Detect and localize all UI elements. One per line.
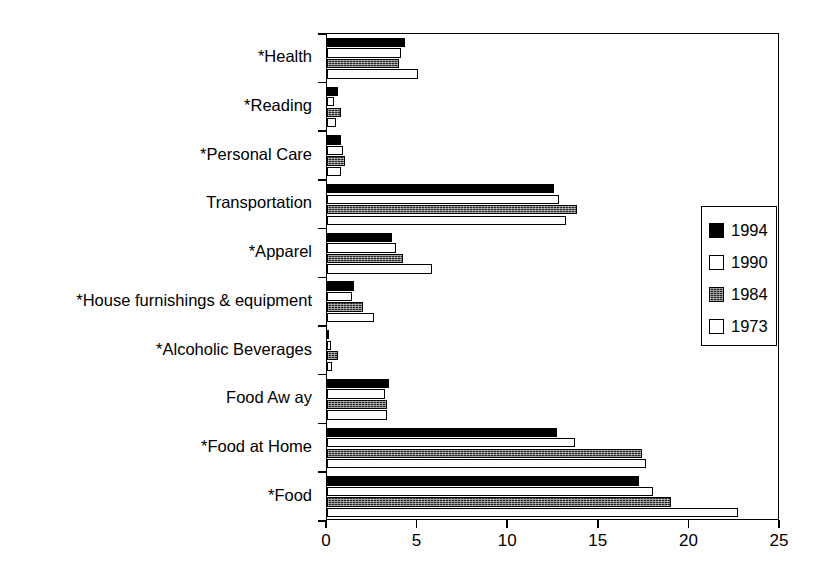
legend-label: 1990 bbox=[731, 254, 768, 271]
bar-group bbox=[327, 83, 778, 132]
bar-1984-2 bbox=[327, 156, 345, 165]
bar-1990-8 bbox=[327, 438, 575, 447]
bar-1990-0 bbox=[327, 48, 401, 57]
legend-item[interactable]: 1973 bbox=[702, 310, 776, 342]
category-label: *Apparel bbox=[249, 243, 312, 260]
x-axis-tick bbox=[778, 520, 780, 528]
bar-1990-9 bbox=[327, 487, 653, 496]
y-axis-tick bbox=[318, 228, 326, 230]
x-axis-tick bbox=[506, 520, 508, 528]
y-axis-tick bbox=[318, 33, 326, 35]
legend-label: 1973 bbox=[731, 318, 768, 335]
bar-1973-3 bbox=[327, 216, 566, 225]
bar-1984-6 bbox=[327, 351, 338, 360]
x-axis-tick-label: 0 bbox=[321, 532, 330, 549]
bar-1990-1 bbox=[327, 97, 334, 106]
bar-1990-4 bbox=[327, 243, 396, 252]
category-label: *House furnishings & equipment bbox=[76, 292, 312, 309]
bar-1994-5 bbox=[327, 281, 354, 290]
x-axis-tick-label: 20 bbox=[679, 532, 698, 549]
x-axis: 0510152025 bbox=[326, 520, 779, 570]
legend-item[interactable]: 1990 bbox=[702, 246, 776, 278]
category-label: *Food bbox=[268, 487, 312, 504]
bar-1994-8 bbox=[327, 428, 557, 437]
x-axis-tick-label: 25 bbox=[770, 532, 789, 549]
bar-1973-8 bbox=[327, 459, 646, 468]
bar-group bbox=[327, 34, 778, 83]
bar-1990-2 bbox=[327, 146, 343, 155]
bar-1973-2 bbox=[327, 167, 341, 176]
bar-1973-5 bbox=[327, 313, 374, 322]
category-label: *Personal Care bbox=[200, 146, 312, 163]
category-axis-labels: *Health*Reading*Personal CareTransportat… bbox=[0, 33, 320, 520]
x-axis-tick bbox=[688, 520, 690, 528]
bar-1973-7 bbox=[327, 410, 387, 419]
bar-1984-5 bbox=[327, 302, 363, 311]
x-axis-tick-label: 5 bbox=[412, 532, 421, 549]
category-label: Transportation bbox=[206, 194, 312, 211]
bar-group bbox=[327, 424, 778, 473]
bar-1994-2 bbox=[327, 135, 341, 144]
bar-group bbox=[327, 131, 778, 180]
bar-1973-0 bbox=[327, 69, 418, 78]
legend-swatch-icon bbox=[709, 223, 724, 238]
bar-1990-7 bbox=[327, 389, 385, 398]
bar-1994-9 bbox=[327, 476, 639, 485]
category-label: *Health bbox=[258, 48, 312, 65]
x-axis-tick bbox=[416, 520, 418, 528]
category-label: Food Aw ay bbox=[226, 389, 312, 406]
bar-1984-1 bbox=[327, 108, 341, 117]
bar-1994-0 bbox=[327, 38, 405, 47]
bar-chart: *Health*Reading*Personal CareTransportat… bbox=[0, 0, 830, 588]
bar-1973-4 bbox=[327, 264, 432, 273]
bar-1984-3 bbox=[327, 205, 577, 214]
y-axis-tick bbox=[318, 82, 326, 84]
bar-1984-9 bbox=[327, 497, 671, 506]
bar-1994-7 bbox=[327, 379, 389, 388]
bar-1990-3 bbox=[327, 195, 559, 204]
y-axis-tick bbox=[318, 374, 326, 376]
y-axis-tick bbox=[318, 179, 326, 181]
bar-1984-7 bbox=[327, 400, 387, 409]
bar-1994-3 bbox=[327, 184, 554, 193]
bar-1984-4 bbox=[327, 254, 403, 263]
category-label: *Alcoholic Beverages bbox=[156, 341, 312, 358]
bar-1994-6 bbox=[327, 330, 329, 339]
y-axis-tick bbox=[318, 325, 326, 327]
category-label: *Food at Home bbox=[201, 438, 312, 455]
bar-group bbox=[327, 472, 778, 521]
category-label: *Reading bbox=[244, 97, 312, 114]
bar-1994-4 bbox=[327, 233, 392, 242]
legend-label: 1994 bbox=[731, 222, 768, 239]
y-axis-tick bbox=[318, 130, 326, 132]
y-axis-tick bbox=[318, 423, 326, 425]
bar-1973-9 bbox=[327, 508, 738, 517]
chart-legend: 1994199019841973 bbox=[701, 206, 777, 346]
y-axis-tick bbox=[318, 520, 326, 522]
bar-1994-1 bbox=[327, 87, 338, 96]
legend-swatch-icon bbox=[709, 255, 724, 270]
x-axis-tick bbox=[597, 520, 599, 528]
bar-1984-8 bbox=[327, 449, 642, 458]
y-axis-tick bbox=[318, 277, 326, 279]
x-axis-tick-label: 15 bbox=[588, 532, 607, 549]
legend-item[interactable]: 1984 bbox=[702, 278, 776, 310]
bar-1984-0 bbox=[327, 59, 399, 68]
legend-swatch-icon bbox=[709, 319, 724, 334]
y-axis-tick bbox=[318, 471, 326, 473]
legend-label: 1984 bbox=[731, 286, 768, 303]
x-axis-tick-label: 10 bbox=[498, 532, 517, 549]
bar-group bbox=[327, 375, 778, 424]
bar-1990-5 bbox=[327, 292, 352, 301]
bar-1973-6 bbox=[327, 362, 332, 371]
bar-1990-6 bbox=[327, 341, 331, 350]
legend-swatch-icon bbox=[709, 287, 724, 302]
legend-item[interactable]: 1994 bbox=[702, 214, 776, 246]
bar-1973-1 bbox=[327, 118, 336, 127]
